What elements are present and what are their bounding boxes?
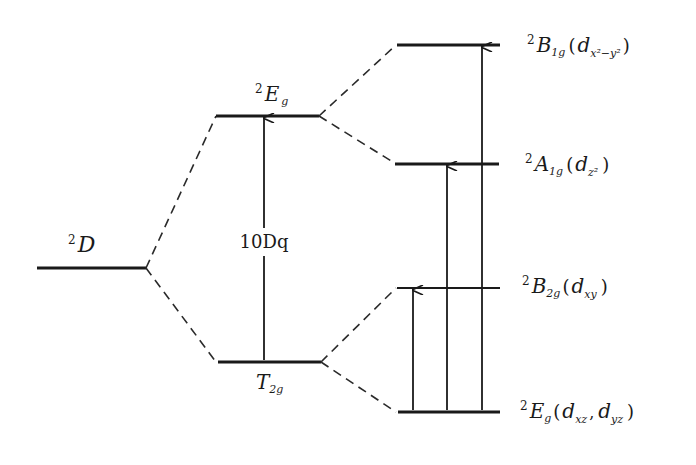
correlation-line-2D-to-Eg [146, 116, 216, 268]
free-ion-label: 2D [68, 232, 96, 257]
10Dq-label: 10Dq [240, 231, 289, 252]
correlation-line-2D-to-T2g [146, 268, 216, 362]
label-B1g: 2B1g(dx²−y²) [527, 33, 630, 60]
octahedral-T2g-label: T2g [256, 370, 283, 396]
octahedral-Eg-label: 2Eg [255, 82, 288, 108]
correlation-line-T2g-to-Eg [321, 362, 396, 412]
correlation-line-Eg-to-A1g [319, 116, 396, 164]
label-B2g: 2B2g(dxy) [522, 274, 608, 301]
label-Eg-ground: 2Eg(dxz,dyz) [520, 399, 634, 426]
correlation-line-T2g-to-B2g [321, 288, 396, 362]
energy-level-diagram: 2D 2Eg T2g 10Dq 2B1g(dx²−y²) 2A1g(dz²) 2… [0, 0, 696, 465]
label-A1g: 2A1g(dz²) [525, 152, 609, 179]
correlation-line-Eg-to-B1g [319, 45, 396, 116]
